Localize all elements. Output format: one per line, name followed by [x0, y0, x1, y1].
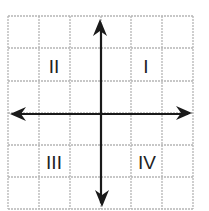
quadrant-label-iii: III [46, 152, 62, 173]
coordinate-plane: II I III IV [0, 0, 209, 211]
quadrant-label-ii: II [49, 56, 60, 77]
quadrant-label-iv: IV [138, 152, 156, 173]
quadrant-label-i: I [143, 56, 148, 77]
